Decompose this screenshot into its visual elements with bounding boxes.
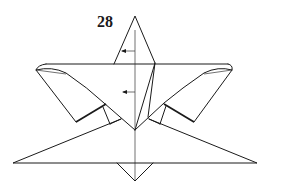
left-wing (36, 64, 135, 130)
arrow-left-icon (121, 49, 135, 53)
arrow-left-icon (122, 90, 135, 94)
fold-drawing (0, 0, 281, 188)
origami-diagram: 28 (0, 0, 281, 188)
right-wing (135, 63, 232, 130)
